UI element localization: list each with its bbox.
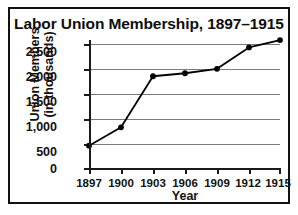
y-axis-line [89, 40, 91, 172]
y-tick-label-500: 500 [9, 145, 57, 159]
x-tick-mark-1915 [279, 168, 281, 174]
y-tick-label-0: 0 [9, 162, 57, 176]
series-polyline [89, 40, 280, 146]
x-tick-label-1909: 1909 [200, 177, 234, 189]
x-tick-mark-1903 [153, 168, 155, 174]
chart-figure: Labor Union Membership, 1897–1915 2,500 … [0, 0, 298, 215]
y-axis-title-line1: Union Members [29, 15, 43, 135]
data-point-1900 [118, 124, 124, 130]
x-tick-label-1906: 1906 [168, 177, 202, 189]
chart-frame: Labor Union Membership, 1897–1915 2,500 … [8, 7, 290, 204]
data-point-1903 [150, 73, 156, 79]
x-tick-label-1912: 1912 [231, 177, 265, 189]
data-point-1906 [182, 70, 188, 76]
plot-area [89, 44, 280, 168]
x-tick-mark-1897 [89, 168, 91, 174]
y-axis-title: Union Members (in thousands) [29, 15, 56, 135]
data-point-1915 [277, 37, 283, 43]
x-tick-label-1900: 1900 [104, 177, 138, 189]
data-point-1909 [214, 66, 220, 72]
x-tick-mark-1912 [249, 168, 251, 174]
x-tick-label-1897: 1897 [72, 177, 106, 189]
x-tick-label-1915: 1915 [261, 177, 295, 189]
series-markers [86, 37, 283, 148]
data-point-1912 [246, 45, 252, 51]
data-series-line [89, 44, 280, 168]
x-tick-mark-1906 [185, 168, 187, 174]
y-axis-title-line2: (in thousands) [42, 15, 56, 135]
x-axis-title: Year [89, 189, 281, 203]
x-tick-mark-1900 [121, 168, 123, 174]
x-tick-label-1903: 1903 [136, 177, 170, 189]
x-tick-mark-1909 [217, 168, 219, 174]
